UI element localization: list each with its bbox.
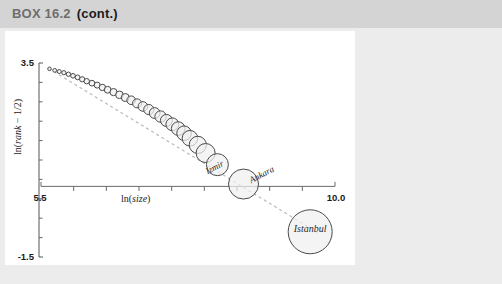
x-axis-min-tick-label: 5.5 (33, 192, 47, 203)
box-header-bar: BOX 16.2(cont.) (0, 0, 502, 28)
city-annotation: Ankara (247, 164, 276, 186)
y-axis-title: ln(rank − 1/2) (12, 99, 24, 155)
y-axis-max-tick-label: 3.5 (21, 57, 35, 68)
box-number-label: BOX 16.2 (12, 6, 71, 21)
trend-line (49, 68, 321, 234)
chart-panel: IzmirAnkaraIstanbul 3.5-1.55.510.0ln(siz… (5, 31, 355, 265)
box-continued-label: (cont.) (77, 6, 118, 21)
rank-size-scatter-chart: IzmirAnkaraIstanbul 3.5-1.55.510.0ln(siz… (5, 31, 355, 265)
x-axis-max-tick-label: 10.0 (327, 192, 346, 203)
x-axis-title: ln(size) (121, 193, 150, 205)
y-axis-min-tick-label: -1.5 (18, 251, 35, 262)
data-points-group (48, 67, 332, 254)
box-header-text: BOX 16.2(cont.) (12, 6, 118, 21)
city-annotation: Istanbul (293, 223, 327, 234)
